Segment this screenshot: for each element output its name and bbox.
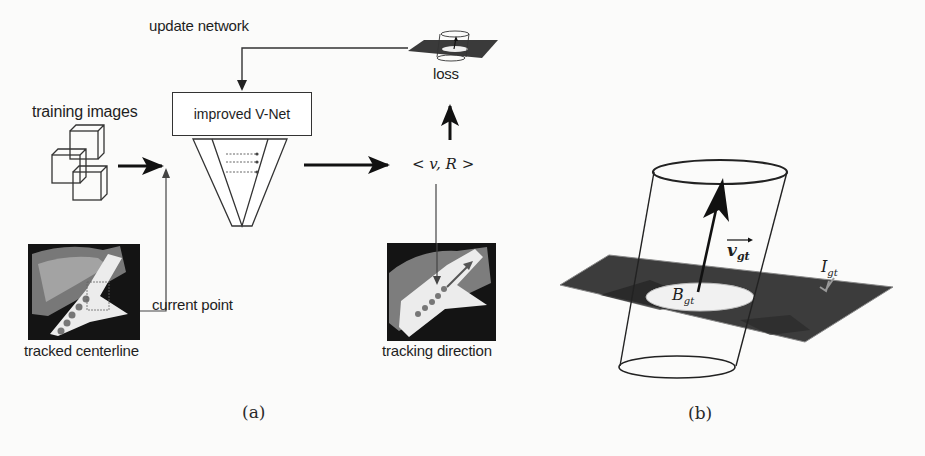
ball-gt-label: Bgt bbox=[672, 285, 694, 306]
tracked-centerline-thumbnail bbox=[28, 244, 140, 340]
diagram-graphics bbox=[0, 0, 925, 456]
tracking-direction-thumbnail bbox=[387, 243, 496, 341]
current-point-label: current point bbox=[152, 296, 233, 313]
caption-b: (b) bbox=[688, 403, 712, 423]
loss-label: loss bbox=[433, 65, 459, 82]
caption-a: (a) bbox=[242, 402, 265, 422]
training-images-label: training images bbox=[32, 103, 138, 121]
vnet-v-shape-icon bbox=[193, 139, 287, 226]
training-images-cubes-icon bbox=[52, 125, 107, 200]
image-gt-label: Igt bbox=[821, 257, 838, 278]
improved-vnet-block: improved V-Net bbox=[172, 92, 312, 136]
vnet-label: improved V-Net bbox=[194, 106, 290, 122]
ground-truth-illustration bbox=[560, 160, 893, 378]
update-network-label: update network bbox=[149, 17, 249, 34]
output-vector-label: < v, R > bbox=[412, 155, 474, 173]
update-network-arrow bbox=[242, 48, 408, 86]
vector-gt-label: vgt bbox=[727, 240, 750, 263]
tracked-centerline-label: tracked centerline bbox=[24, 342, 139, 359]
loss-icon bbox=[408, 31, 498, 61]
tracking-direction-label: tracking direction bbox=[382, 342, 492, 359]
